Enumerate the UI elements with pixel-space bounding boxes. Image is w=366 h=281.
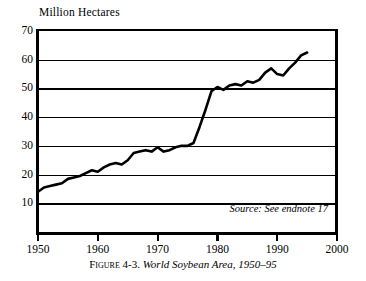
source-note: Source: See endnote 17 <box>230 203 328 214</box>
y-tick-30: 30 <box>3 140 33 152</box>
x-tick-mark-1950 <box>37 235 39 241</box>
x-tick-mark-1980 <box>216 235 218 241</box>
x-tick-mark-1970 <box>157 235 159 241</box>
x-tick-1960: 1960 <box>76 243 120 255</box>
y-axis-label: Million Hectares <box>39 6 120 18</box>
caption-prefix: Figure 4-3. <box>89 258 140 270</box>
x-tick-1980: 1980 <box>195 243 239 255</box>
y-tick-70: 70 <box>3 25 33 37</box>
y-tick-10: 10 <box>3 197 33 209</box>
y-tick-40: 40 <box>3 111 33 123</box>
y-tick-20: 20 <box>3 169 33 181</box>
x-tick-mark-2000 <box>336 235 338 241</box>
x-tick-mark-1960 <box>97 235 99 241</box>
figure-world-soybean-area: Million Hectares 70605040302010 19501960… <box>0 0 366 281</box>
x-tick-1990: 1990 <box>255 243 299 255</box>
x-tick-1970: 1970 <box>136 243 180 255</box>
y-axis-tick-labels: 70605040302010 <box>0 0 33 281</box>
x-tick-2000: 2000 <box>315 243 359 255</box>
figure-caption: Figure 4-3. World Soybean Area, 1950–95 <box>0 258 366 270</box>
data-line-soybean-area <box>38 31 337 232</box>
x-tick-mark-1990 <box>276 235 278 241</box>
x-axis-line <box>36 232 338 235</box>
y-tick-60: 60 <box>3 54 33 66</box>
y-tick-50: 50 <box>3 82 33 94</box>
caption-title: World Soybean Area, 1950–95 <box>143 258 277 270</box>
x-tick-1950: 1950 <box>16 243 60 255</box>
